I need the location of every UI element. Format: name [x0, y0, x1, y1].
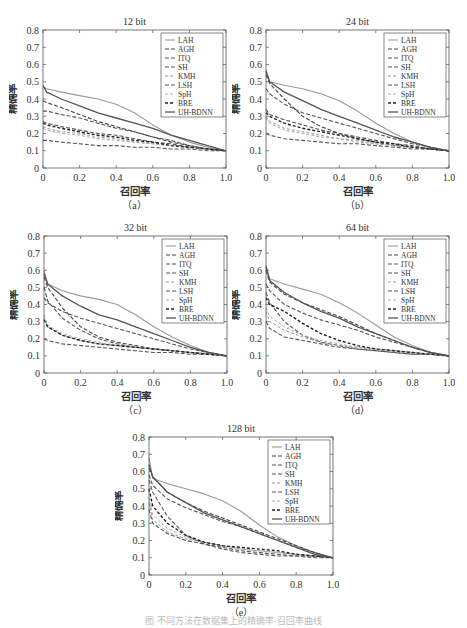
x-tick-label: 0.6 — [253, 579, 266, 590]
legend-label: LAH — [401, 36, 417, 45]
x-tick-label: 1.0 — [327, 579, 339, 590]
series-line-sh — [43, 121, 226, 150]
y-tick-label: 0.1 — [27, 145, 40, 156]
x-tick-label: 0.8 — [406, 377, 419, 388]
x-tick-label: 1.0 — [220, 172, 232, 183]
y-tick-label: 0 — [257, 368, 262, 379]
y-tick-label: 0.8 — [27, 25, 40, 36]
y-tick-label: 0.6 — [133, 466, 146, 477]
legend-label: UH-BDNN — [179, 314, 214, 323]
legend-label: LSH — [178, 81, 193, 90]
legend-label: AGH — [401, 251, 418, 260]
legend: LAHAGHITQSHKMHLSHSpHBREUH-BDNN — [384, 239, 446, 323]
legend-label: SH — [179, 269, 189, 278]
x-tick-label: 0.8 — [183, 172, 196, 183]
chart-title: 64 bit — [346, 222, 369, 233]
legend-label: LAH — [285, 443, 301, 452]
y-tick-label: 0.8 — [250, 25, 263, 36]
x-tick-label: 1.0 — [443, 377, 455, 388]
legend-label: LSH — [179, 287, 194, 296]
legend-label: SpH — [285, 497, 299, 506]
y-axis-label: 精确率 — [9, 83, 18, 114]
x-axis-label: 召回率 — [343, 390, 374, 402]
x-tick-label: 0.8 — [184, 377, 197, 388]
x-tick-label: 0.2 — [74, 377, 87, 388]
y-axis-label: 精确率 — [10, 289, 19, 320]
legend-label: LSH — [401, 81, 416, 90]
series-line-bre — [43, 123, 226, 151]
x-tick-label: 0.4 — [111, 377, 124, 388]
y-tick-label: 0.5 — [250, 76, 263, 87]
legend-label: SpH — [179, 296, 193, 305]
legend-label: KMH — [285, 479, 303, 488]
y-tick-label: 0.3 — [250, 316, 263, 327]
x-tick-label: 0.6 — [148, 377, 161, 388]
legend-label: LSH — [401, 287, 416, 296]
legend-label: SH — [178, 63, 188, 72]
x-tick-label: 0.2 — [296, 377, 309, 388]
y-tick-label: 0.3 — [133, 518, 146, 529]
x-tick-label: 0 — [147, 579, 152, 590]
x-tick-label: 0.8 — [290, 579, 303, 590]
legend-label: LAH — [401, 242, 417, 251]
legend-label: KMH — [178, 72, 196, 81]
subfigure-label: （b） — [345, 200, 370, 211]
x-axis-label: 召回率 — [343, 185, 374, 197]
legend-label: BRE — [285, 506, 300, 515]
y-tick-label: 0.3 — [250, 111, 263, 122]
legend-label: UH-BDNN — [401, 314, 436, 323]
legend: LAHAGHITQSHKMHLSHSpHBREUH-BDNN — [161, 33, 223, 117]
y-tick-label: 0.4 — [250, 94, 263, 105]
legend-label: AGH — [285, 452, 302, 461]
legend-label: ITQ — [285, 461, 298, 470]
x-tick-label: 0 — [264, 377, 269, 388]
y-tick-label: 0 — [257, 163, 262, 174]
legend-label: UH-BDNN — [285, 515, 320, 524]
legend-label: AGH — [401, 45, 418, 54]
y-tick-label: 0.5 — [27, 76, 40, 87]
y-tick-label: 0.1 — [28, 350, 41, 361]
y-tick-label: 0 — [34, 163, 39, 174]
y-tick-label: 0 — [140, 570, 145, 581]
y-tick-label: 0 — [35, 368, 40, 379]
y-tick-label: 0.8 — [250, 231, 263, 242]
y-tick-label: 0.5 — [28, 282, 41, 293]
y-tick-label: 0.3 — [28, 316, 41, 327]
x-tick-label: 0.2 — [296, 172, 309, 183]
x-tick-label: 1.0 — [443, 172, 455, 183]
y-tick-label: 0.4 — [27, 94, 40, 105]
y-axis-label: 精确率 — [232, 289, 241, 320]
x-tick-label: 0.2 — [73, 172, 86, 183]
y-tick-label: 0.1 — [250, 350, 263, 361]
y-tick-label: 0.2 — [28, 333, 41, 344]
legend-label: LSH — [285, 488, 300, 497]
chart-panel-d: 64 bit00.10.20.30.40.50.60.70.800.20.40.… — [232, 218, 455, 425]
subfigure-label: （a） — [122, 200, 146, 211]
y-tick-label: 0.8 — [133, 432, 146, 443]
legend-label: KMH — [401, 72, 419, 81]
legend-label: SpH — [401, 296, 415, 305]
y-tick-label: 0.4 — [250, 299, 263, 310]
legend-label: UH-BDNN — [178, 108, 213, 117]
chart-title: 12 bit — [123, 16, 146, 27]
x-tick-label: 0.8 — [406, 172, 419, 183]
y-tick-label: 0.7 — [27, 42, 40, 53]
x-tick-label: 0.4 — [333, 172, 346, 183]
y-tick-label: 0.8 — [28, 231, 41, 242]
legend-label: UH-BDNN — [401, 108, 436, 117]
y-tick-label: 0.7 — [250, 248, 263, 259]
chart-panel-c: 32 bit00.10.20.30.40.50.60.70.800.20.40.… — [10, 218, 233, 425]
y-tick-label: 0.6 — [250, 59, 263, 70]
series-line-kmh — [266, 116, 449, 151]
y-tick-label: 0.5 — [133, 483, 146, 494]
legend-label: LAH — [178, 36, 194, 45]
legend: LAHAGHITQSHKMHLSHSpHBREUH-BDNN — [162, 239, 224, 323]
legend-label: SH — [285, 470, 295, 479]
legend-label: KMH — [179, 278, 197, 287]
y-tick-label: 0.7 — [133, 449, 146, 460]
chart-title: 32 bit — [124, 222, 147, 233]
y-tick-label: 0.2 — [133, 535, 146, 546]
figure-caption: 图 不同方法在数据集上的精确率-召回率曲线 — [0, 614, 467, 627]
chart-panel-e: 128 bit00.10.20.30.40.50.60.70.800.20.40… — [115, 419, 339, 627]
y-tick-label: 0.1 — [250, 145, 263, 156]
